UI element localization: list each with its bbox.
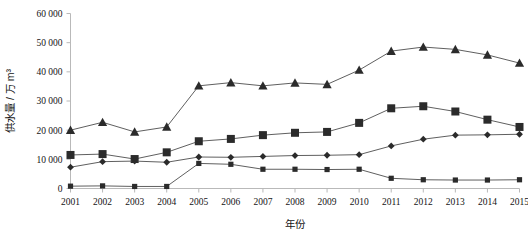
data-point xyxy=(164,184,169,189)
data-point xyxy=(100,183,105,188)
data-point xyxy=(516,131,523,138)
data-point xyxy=(356,151,363,158)
y-tick-label: 30 000 xyxy=(36,96,62,106)
x-tick-label: 2011 xyxy=(382,197,401,207)
data-point xyxy=(228,162,233,167)
data-point xyxy=(227,154,234,161)
y-tick-label: 20 000 xyxy=(36,126,62,136)
y-tick-label: 50 000 xyxy=(36,38,62,48)
data-point xyxy=(357,167,362,172)
data-point xyxy=(259,131,267,139)
data-point xyxy=(420,136,427,143)
data-point xyxy=(388,143,395,150)
x-tick-label: 2004 xyxy=(157,197,176,207)
series-diamond xyxy=(67,131,523,171)
x-tick-label: 2015 xyxy=(510,197,528,207)
series-small-square xyxy=(68,161,522,189)
data-point xyxy=(517,177,522,182)
data-point xyxy=(67,151,75,159)
data-point xyxy=(226,78,235,86)
data-point xyxy=(483,116,491,124)
y-axis-title: 供水量 / 万 m³ xyxy=(4,69,16,133)
data-point xyxy=(163,159,170,166)
data-point xyxy=(68,184,73,189)
data-point xyxy=(355,65,364,73)
data-point xyxy=(355,119,363,127)
data-point xyxy=(163,148,171,156)
y-axis: 010 00020 00030 00040 00050 00060 000 xyxy=(36,9,70,194)
data-point xyxy=(98,118,107,126)
data-point xyxy=(67,164,74,171)
x-tick-label: 2013 xyxy=(446,197,465,207)
data-point xyxy=(324,152,331,159)
data-point xyxy=(292,167,297,172)
y-tick-label: 10 000 xyxy=(36,155,62,165)
data-point xyxy=(290,78,299,86)
x-axis-title: 年份 xyxy=(285,218,306,230)
y-tick-label: 60 000 xyxy=(36,9,62,19)
data-point xyxy=(419,102,427,110)
x-tick-label: 2003 xyxy=(125,197,144,207)
x-tick-label: 2012 xyxy=(414,197,433,207)
data-point xyxy=(389,176,394,181)
y-tick-label: 40 000 xyxy=(36,67,62,77)
data-point xyxy=(260,167,265,172)
x-tick-label: 2006 xyxy=(221,197,240,207)
y-tick-label: 0 xyxy=(58,184,63,194)
x-tick-label: 2008 xyxy=(286,197,305,207)
data-point xyxy=(291,129,299,137)
data-point xyxy=(516,123,524,131)
data-point xyxy=(485,177,490,182)
data-point xyxy=(162,122,171,130)
data-point xyxy=(421,177,426,182)
data-point xyxy=(419,42,428,50)
data-point xyxy=(484,131,491,138)
data-point xyxy=(292,152,299,159)
chart-canvas: 010 00020 00030 00040 00050 00060 000200… xyxy=(0,0,528,234)
supply-volume-line-chart: 010 00020 00030 00040 00050 00060 000200… xyxy=(0,0,528,234)
x-tick-label: 2009 xyxy=(318,197,337,207)
x-tick-label: 2014 xyxy=(478,197,497,207)
x-tick-label: 2007 xyxy=(253,197,272,207)
data-point xyxy=(132,184,137,189)
data-point xyxy=(451,108,459,116)
x-tick-label: 2002 xyxy=(93,197,112,207)
series-triangle xyxy=(66,42,524,135)
data-point xyxy=(453,177,458,182)
x-tick-label: 2005 xyxy=(189,197,208,207)
data-point xyxy=(387,104,395,112)
data-point xyxy=(323,128,331,136)
data-point xyxy=(227,135,235,143)
x-tick-label: 2010 xyxy=(350,197,369,207)
x-tick-label: 2001 xyxy=(61,197,80,207)
data-point xyxy=(99,150,107,158)
data-point xyxy=(196,161,201,166)
x-axis: 2001200220032004200520062007200820092010… xyxy=(61,189,528,207)
data-point xyxy=(260,153,267,160)
data-point xyxy=(195,154,202,161)
data-point xyxy=(195,137,203,145)
data-point xyxy=(324,167,329,172)
data-point xyxy=(99,158,106,165)
data-point xyxy=(452,132,459,139)
